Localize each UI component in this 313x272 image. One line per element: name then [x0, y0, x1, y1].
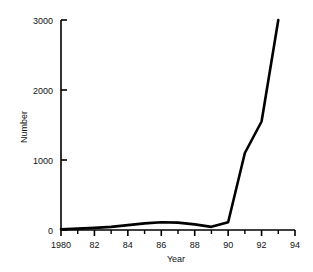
y-tick-label: 2000 — [33, 86, 53, 96]
y-tick-label: 1000 — [33, 156, 53, 166]
x-tick-label: 90 — [223, 240, 233, 250]
y-axis-title: Number — [19, 111, 29, 143]
x-tick-label: 94 — [290, 240, 300, 250]
x-axis-title: Year — [167, 254, 185, 264]
chart-canvas: 0100020003000 198082848688909294 Year Nu… — [0, 0, 313, 272]
x-tick-label: 1980 — [51, 240, 71, 250]
x-tick-label: 84 — [123, 240, 133, 250]
y-tick-label: 0 — [48, 226, 53, 236]
chart-background — [0, 0, 313, 272]
line-chart: 0100020003000 198082848688909294 Year Nu… — [0, 0, 313, 272]
x-tick-label: 82 — [89, 240, 99, 250]
x-tick-label: 92 — [257, 240, 267, 250]
y-tick-label: 3000 — [33, 16, 53, 26]
x-tick-label: 86 — [156, 240, 166, 250]
x-tick-label: 88 — [190, 240, 200, 250]
